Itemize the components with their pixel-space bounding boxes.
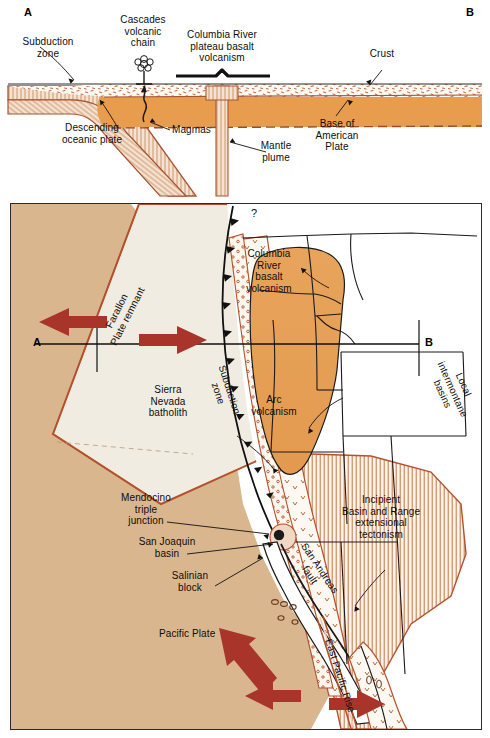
cascades-eruption-icon: [135, 56, 153, 84]
label-magmas: Magmas: [172, 124, 211, 136]
label-crust-xsec: Crust: [356, 48, 408, 60]
mantle-plume-head: [206, 86, 238, 100]
panel-letter-b: B: [466, 6, 474, 18]
label-columbia-river-plateau-basalt: Columbia River plateau basalt volcanism: [168, 29, 276, 64]
label-query-marker: ?: [251, 208, 257, 220]
label-descending-oceanic-plate: Descending oceanic plate: [38, 122, 146, 145]
map-transect-letter-a: A: [33, 336, 41, 348]
label-pacific-plate: Pacific Plate: [159, 628, 215, 640]
label-subduction-zone-xsec: Subduction zone: [8, 36, 88, 59]
cross-section-panel: A B Subduction zone Cascades volcanic ch…: [0, 0, 490, 200]
label-columbia-river-basalt-volcanism: Columbia River basalt volcanism: [231, 248, 307, 294]
label-base-of-american-plate: Base of American Plate: [300, 118, 374, 153]
label-sierra-nevada-batholith: Sierra Nevada batholith: [133, 384, 203, 419]
columbia-river-bracket: [176, 70, 270, 76]
label-mendocino-triple-junction: Mendocino triple junction: [105, 492, 187, 527]
label-arc-volcanism: Arc volcanism: [239, 394, 309, 417]
label-san-joaquin-basin: San Joaquin basin: [123, 536, 211, 559]
label-mantle-plume: Mantle plume: [248, 140, 304, 163]
map-panel: A B Farallon Plate remnant Subduction zo…: [10, 203, 482, 730]
figure-root: A B Subduction zone Cascades volcanic ch…: [0, 0, 490, 738]
label-incipient-basin-and-range: Incipient Basin and Range extensional te…: [321, 494, 441, 540]
panel-letter-a: A: [24, 6, 32, 18]
mantle-plume-conduit: [216, 86, 228, 196]
label-salinian-block: Salinian block: [157, 570, 223, 593]
